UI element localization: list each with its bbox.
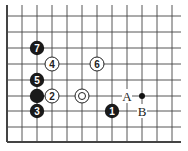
move-number: 1 bbox=[109, 106, 115, 117]
black-stone-3: 3 bbox=[30, 104, 44, 118]
move-number: 3 bbox=[34, 106, 40, 117]
black-stone-5: 5 bbox=[30, 73, 44, 87]
go-board: AB 7465231 bbox=[0, 0, 188, 151]
black-stone-1: 1 bbox=[105, 104, 119, 118]
board-grid bbox=[7, 5, 181, 142]
point-labels: AB bbox=[122, 89, 147, 119]
white-stone-6: 6 bbox=[90, 57, 104, 71]
move-number: 6 bbox=[94, 59, 100, 70]
white-stone-2: 2 bbox=[45, 89, 59, 103]
move-number: 2 bbox=[49, 91, 55, 102]
stones: 7465231 bbox=[30, 41, 119, 118]
stone-body bbox=[30, 89, 44, 103]
move-number: 5 bbox=[34, 75, 40, 86]
point-label-a: A bbox=[122, 89, 132, 104]
stone-body bbox=[75, 89, 89, 103]
move-number: 7 bbox=[34, 43, 40, 54]
small-dot-marker bbox=[139, 93, 145, 99]
black-stone-7: 7 bbox=[30, 41, 44, 55]
white-stone-marked bbox=[75, 89, 89, 103]
white-stone-4: 4 bbox=[45, 57, 59, 71]
point-label-b: B bbox=[138, 104, 147, 119]
black-stone bbox=[30, 89, 44, 103]
board-markers bbox=[139, 93, 145, 99]
move-number: 4 bbox=[49, 59, 55, 70]
